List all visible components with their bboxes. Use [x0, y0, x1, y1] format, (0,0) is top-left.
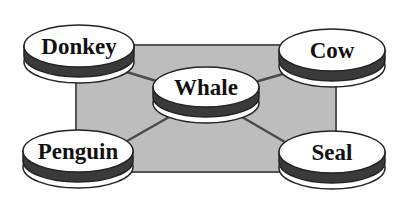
- node-whale: Whale: [153, 67, 259, 123]
- node-label-penguin: Penguin: [38, 139, 119, 164]
- node-seal: Seal: [279, 131, 385, 189]
- node-donkey: Donkey: [24, 25, 134, 83]
- node-cow: Cow: [279, 29, 385, 87]
- node-label-seal: Seal: [312, 140, 353, 165]
- node-label-whale: Whale: [174, 75, 238, 100]
- node-label-cow: Cow: [310, 38, 355, 63]
- node-penguin: Penguin: [23, 130, 133, 188]
- node-label-donkey: Donkey: [41, 34, 117, 59]
- network-diagram: Donkey Cow Whale Penguin Seal: [0, 0, 409, 213]
